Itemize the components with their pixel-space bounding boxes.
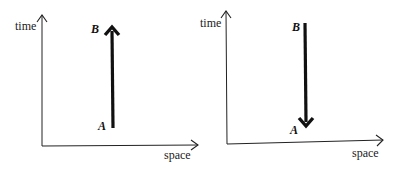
right-diagram: time space B A	[200, 11, 383, 160]
left-time-axis	[37, 15, 47, 146]
right-time-axis	[221, 11, 231, 144]
right-point-b: B	[291, 20, 300, 34]
right-worldline-arrow	[299, 23, 313, 126]
right-point-a: A	[289, 123, 298, 137]
left-diagram: time space B A	[15, 15, 198, 162]
left-point-b: B	[90, 22, 99, 36]
left-time-label: time	[15, 19, 36, 33]
right-time-label: time	[200, 16, 221, 30]
spacetime-diagrams: time space B A time space B A	[0, 0, 397, 170]
left-space-label: space	[164, 148, 191, 162]
right-space-axis	[227, 135, 383, 146]
left-point-a: A	[97, 119, 106, 133]
left-worldline-arrow	[105, 27, 119, 128]
right-space-label: space	[352, 146, 379, 160]
